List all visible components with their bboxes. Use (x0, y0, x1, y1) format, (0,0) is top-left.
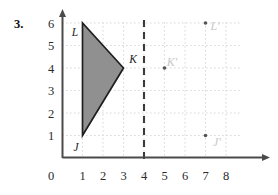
ghost-point-J-prime: J' (204, 134, 222, 149)
y-tick-6: 6 (48, 17, 54, 31)
vertex-label-K: K (128, 53, 138, 65)
x-axis (63, 154, 271, 161)
ghost-label-J-prime: J' (213, 135, 221, 149)
x-tick-5: 5 (161, 169, 167, 183)
x-axis-tick-labels: 0 1 2 3 4 5 6 7 8 (48, 169, 229, 183)
coordinate-plane: 1 2 3 4 5 6 0 1 2 3 4 5 6 7 8 L K J L' (0, 0, 278, 195)
y-axis-tick-labels: 1 2 3 4 5 6 (48, 17, 55, 144)
x-tick-1: 1 (79, 169, 85, 183)
x-tick-8: 8 (223, 169, 229, 183)
ghost-point-L-prime: L' (204, 19, 220, 33)
y-tick-3: 3 (48, 84, 54, 98)
x-tick-6: 6 (182, 169, 188, 183)
y-tick-4: 4 (48, 62, 55, 76)
ghost-label-L-prime: L' (209, 19, 220, 33)
x-tick-0: 0 (48, 169, 54, 183)
y-axis (59, 9, 66, 158)
x-tick-2: 2 (100, 169, 106, 183)
x-tick-7: 7 (202, 169, 208, 183)
vertex-label-L: L (71, 26, 78, 38)
y-tick-2: 2 (48, 107, 54, 121)
y-tick-1: 1 (48, 129, 54, 143)
y-tick-5: 5 (48, 39, 54, 53)
ghost-label-K-prime: K' (166, 55, 178, 69)
vertex-label-J: J (73, 141, 79, 153)
x-tick-3: 3 (120, 169, 126, 183)
worksheet-problem-figure: 3. (0, 0, 278, 195)
x-tick-4: 4 (141, 169, 148, 183)
